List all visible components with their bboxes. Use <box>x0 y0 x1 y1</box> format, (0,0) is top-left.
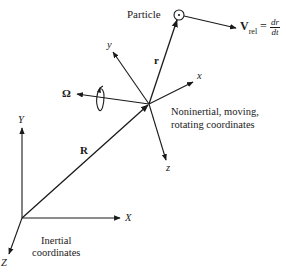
rotating-frame-caption-line1: Noninertial, moving, <box>171 107 259 118</box>
particle-label: Particle <box>127 9 161 20</box>
rotating-x-label: x <box>197 71 202 82</box>
reference-frames-diagram: Particle Vrel = dr dt r y x z Ω R Nonine… <box>0 0 286 277</box>
velocity-symbol: V <box>240 19 249 33</box>
inertial-Y-label: Y <box>18 115 24 126</box>
inertial-Z-label: Z <box>1 258 7 269</box>
inertial-X-label: X <box>125 213 131 224</box>
rotating-y-axis <box>113 52 149 104</box>
relative-position-label: r <box>154 55 159 66</box>
relative-velocity-vector <box>184 16 236 28</box>
rotating-y-label: y <box>107 40 112 51</box>
origin-vector-label: R <box>80 145 88 156</box>
velocity-subscript: rel <box>249 27 257 36</box>
inertial-caption-line1: Inertial <box>41 236 71 247</box>
rotating-z-label: z <box>166 163 170 174</box>
velocity-fraction: dr dt <box>270 18 280 37</box>
rotating-frame-caption-line2: rotating coordinates <box>171 120 255 131</box>
velocity-denominator: dt <box>270 28 280 37</box>
angular-velocity-label: Ω <box>62 88 71 99</box>
velocity-equals: = <box>260 19 267 33</box>
inertial-z-axis <box>9 218 22 254</box>
origin-vector-R <box>22 105 148 218</box>
velocity-equation: Vrel = dr dt <box>240 18 280 37</box>
inertial-caption-line2: coordinates <box>32 248 80 259</box>
angular-velocity-vector <box>77 94 149 104</box>
rotating-z-axis <box>149 104 166 160</box>
